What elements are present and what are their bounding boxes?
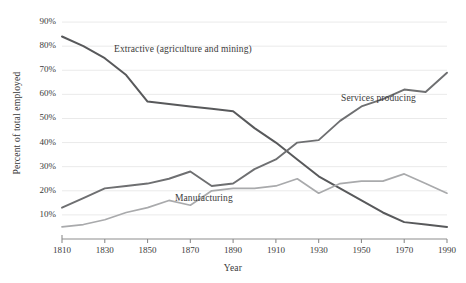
x-tick-label: 1970 — [384, 245, 424, 255]
line-chart-plot — [0, 0, 466, 283]
x-tick-label: 1870 — [170, 245, 210, 255]
series-label-manufacturing: Manufacturing — [175, 193, 233, 203]
y-tick-label: 20% — [22, 185, 56, 195]
x-tick-label: 1930 — [299, 245, 339, 255]
y-tick-label: 90% — [22, 16, 56, 26]
y-tick-label: 80% — [22, 40, 56, 50]
x-tick-label: 1890 — [213, 245, 253, 255]
y-axis-title: Percent of total employed — [12, 43, 22, 203]
series-label-extractive: Extractive (agriculture and mining) — [114, 44, 252, 54]
y-tick-label: 40% — [22, 137, 56, 147]
x-axis-title: Year — [0, 263, 466, 273]
y-tick-label: 70% — [22, 64, 56, 74]
chart-figure: Percent of total employed Year Extractiv… — [0, 0, 466, 283]
x-tick-label: 1810 — [42, 245, 82, 255]
y-tick-label: 30% — [22, 161, 56, 171]
x-tick-label: 1990 — [427, 245, 466, 255]
cropped-caption-sliver — [0, 276, 466, 283]
x-tick-label: 1910 — [256, 245, 296, 255]
x-tick-label: 1950 — [341, 245, 381, 255]
y-tick-label: 10% — [22, 209, 56, 219]
series-line-extractive — [62, 37, 447, 227]
y-tick-label: 60% — [22, 88, 56, 98]
series-label-services: Services producing — [341, 93, 416, 103]
y-tick-label: 50% — [22, 112, 56, 122]
series-line-manufacturing — [62, 174, 447, 227]
x-tick-label: 1850 — [128, 245, 168, 255]
x-tick-label: 1830 — [85, 245, 125, 255]
